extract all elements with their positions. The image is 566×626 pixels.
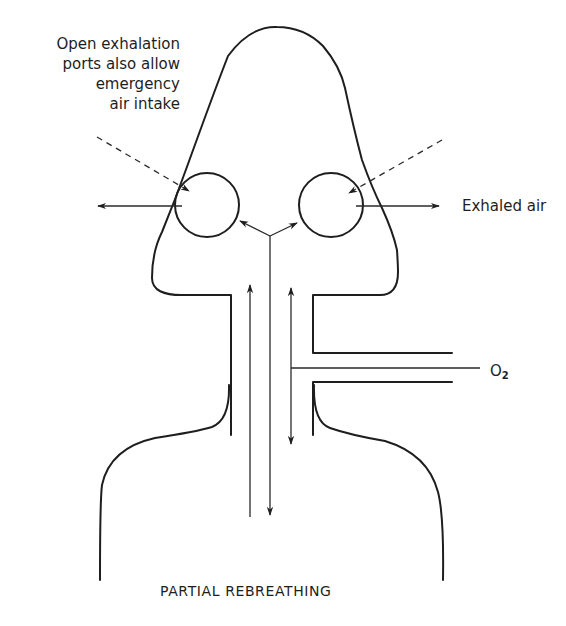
ports-note-line-1: Open exhalation xyxy=(57,34,180,54)
emergency-intake-left-arrow xyxy=(97,137,189,191)
oxygen-inlet-lower-wall xyxy=(313,382,452,435)
oxygen-label: O2 xyxy=(490,361,509,386)
ports-note-label: Open exhalation ports also allow emergen… xyxy=(57,34,180,114)
shoulders-outline-right xyxy=(314,385,443,580)
exhaled-air-label: Exhaled air xyxy=(462,196,546,216)
split-to-right-port xyxy=(270,223,297,236)
ports-note-line-2: ports also allow xyxy=(57,54,180,74)
right-exhalation-port xyxy=(299,173,363,237)
ports-note-line-3: emergency xyxy=(57,74,180,94)
left-exhalation-port xyxy=(175,173,239,237)
emergency-intake-right-arrow xyxy=(349,140,442,193)
oxygen-label-subscript: 2 xyxy=(502,370,509,381)
ports-note-line-4: air intake xyxy=(57,94,180,114)
diagram-title: PARTIAL REBREATHING xyxy=(160,581,332,601)
oxygen-label-main: O xyxy=(490,362,502,380)
split-to-left-port xyxy=(240,221,270,236)
shoulders-outline-left xyxy=(100,385,229,580)
